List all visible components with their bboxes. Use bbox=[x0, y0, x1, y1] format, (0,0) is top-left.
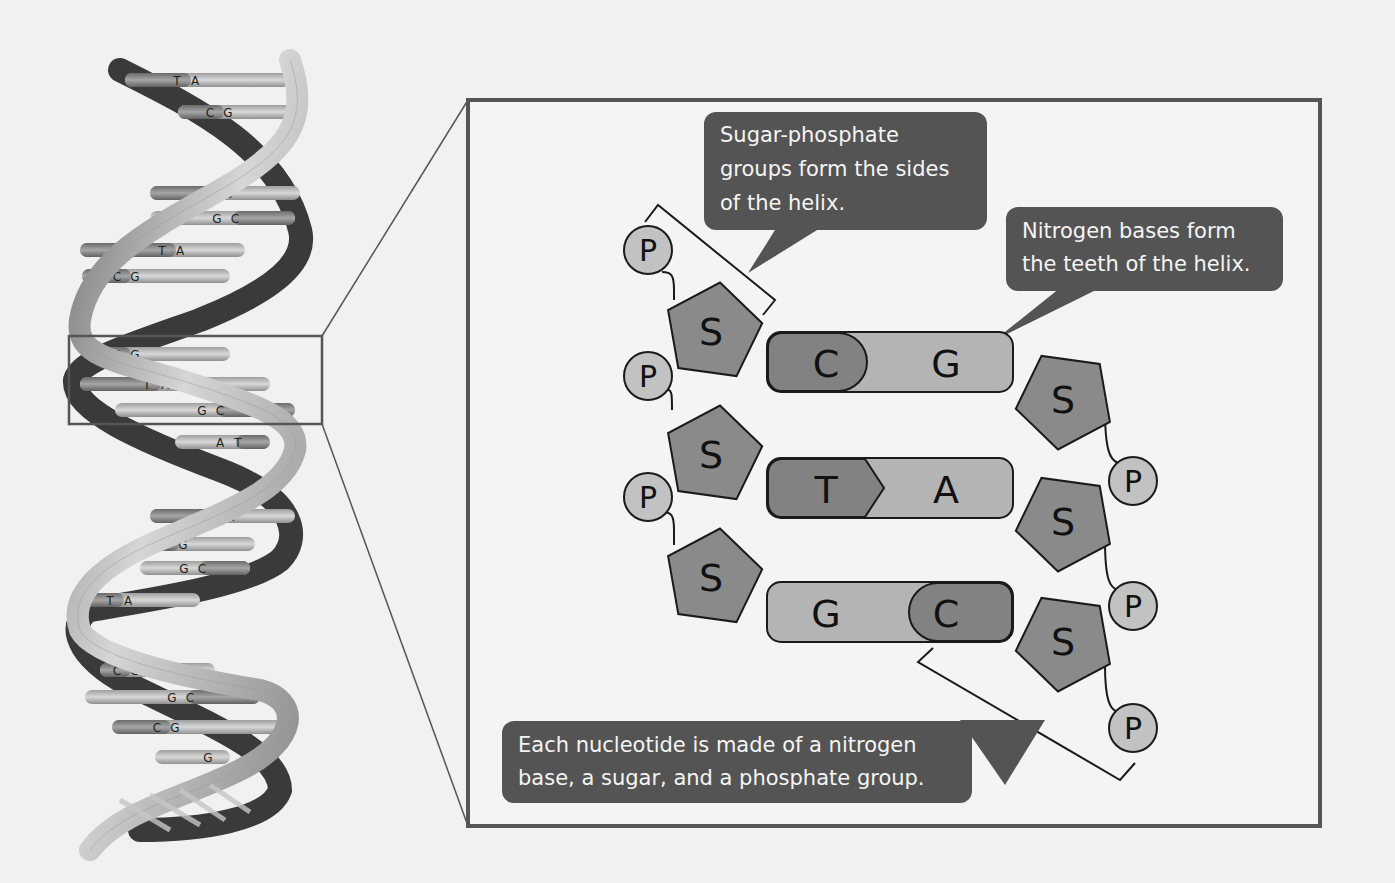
rung-1-right-base: G bbox=[931, 342, 960, 386]
phosphate-label: P bbox=[1124, 711, 1142, 746]
rung-1-left-base: C bbox=[813, 342, 840, 386]
helix-base-left: T bbox=[105, 594, 114, 608]
phosphate-label: P bbox=[639, 359, 657, 394]
helix-base-right: G bbox=[203, 751, 212, 765]
callout-line: of the helix. bbox=[720, 186, 973, 220]
helix-base-left: T bbox=[157, 244, 166, 258]
helix-base-right: C bbox=[186, 691, 194, 705]
sugar-label: S bbox=[699, 310, 723, 354]
helix-base-left: T bbox=[172, 74, 181, 88]
helix-base-left: C bbox=[206, 106, 214, 120]
helix-base-pair: TA bbox=[85, 593, 200, 608]
callout-line: Nitrogen bases form bbox=[1022, 215, 1269, 248]
sugar-label: S bbox=[699, 433, 723, 477]
sugar-label: S bbox=[1051, 378, 1075, 422]
rung-3-left-base: G bbox=[811, 592, 840, 636]
phosphate-circle: P bbox=[1109, 704, 1157, 752]
dna-diagram: TACGCGGCTACGCGTAGCATTACGGCTACGGCCGG bbox=[0, 0, 1395, 883]
helix-base-left: G bbox=[212, 212, 221, 226]
helix-base-pair: CG bbox=[112, 720, 290, 735]
phosphate-circle: P bbox=[624, 473, 672, 521]
phosphate-label: P bbox=[1124, 589, 1142, 624]
detail-rung-1: C G bbox=[767, 332, 1013, 392]
helix-base-right: C bbox=[216, 404, 224, 418]
helix-base-left: G bbox=[197, 404, 206, 418]
callout-line: Sugar-phosphate bbox=[720, 118, 973, 152]
callout-line: Each nucleotide is made of a nitrogen bbox=[518, 729, 958, 762]
detail-rung-2: T A bbox=[767, 458, 1013, 518]
phosphate-circle: P bbox=[624, 226, 672, 274]
helix-base-left: G bbox=[179, 562, 188, 576]
helix-base-right: G bbox=[130, 270, 139, 284]
phosphate-label: P bbox=[639, 480, 657, 515]
callout-line: groups form the sides bbox=[720, 152, 973, 186]
rung-3-right-base: C bbox=[933, 592, 960, 636]
rung-2-left-base: T bbox=[813, 468, 838, 512]
helix-base-right: C bbox=[231, 212, 239, 226]
helix-base-right: A bbox=[176, 244, 185, 258]
helix-base-right: G bbox=[170, 721, 179, 735]
helix-base-pair: CG bbox=[178, 105, 300, 120]
sugar-label: S bbox=[1051, 620, 1075, 664]
helix-base-right: C bbox=[198, 562, 206, 576]
detail-rung-3: G C bbox=[767, 582, 1013, 642]
helix-base-right: A bbox=[124, 594, 133, 608]
phosphate-label: P bbox=[1124, 464, 1142, 499]
callout-line: base, a sugar, and a phosphate group. bbox=[518, 762, 958, 795]
rung-2-right-base: A bbox=[933, 468, 959, 512]
phosphate-label: P bbox=[639, 233, 657, 268]
sugar-label: S bbox=[699, 556, 723, 600]
helix-back-strand bbox=[75, 70, 301, 830]
helix-base-left: A bbox=[216, 436, 225, 450]
helix-base-pair: TA bbox=[125, 73, 290, 88]
callout-sugar-phosphate: Sugar-phosphate groups form the sides of… bbox=[704, 112, 987, 230]
helix-base-left: G bbox=[167, 691, 176, 705]
helix-base-pair: G bbox=[155, 750, 230, 765]
callout-line: the teeth of the helix. bbox=[1022, 248, 1269, 281]
helix-base-pair: AT bbox=[175, 435, 270, 450]
zoom-connector-bottom bbox=[322, 424, 468, 826]
helix-base-right: T bbox=[233, 436, 242, 450]
phosphate-circle: P bbox=[1109, 582, 1157, 630]
zoom-connector-top bbox=[322, 100, 468, 336]
callout-nucleotide: Each nucleotide is made of a nitrogen ba… bbox=[502, 721, 972, 803]
helix-base-right: A bbox=[191, 74, 200, 88]
phosphate-circle: P bbox=[1109, 457, 1157, 505]
sugar-label: S bbox=[1051, 500, 1075, 544]
helix-base-pair: GC bbox=[140, 561, 250, 576]
callout-nitrogen-bases: Nitrogen bases form the teeth of the hel… bbox=[1006, 207, 1283, 291]
helix-base-left: C bbox=[153, 721, 161, 735]
helix-base-right: G bbox=[223, 106, 232, 120]
phosphate-circle: P bbox=[624, 352, 672, 400]
